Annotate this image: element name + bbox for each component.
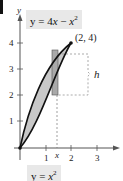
equation-exponent: 2 [74,14,78,22]
equation-text: y = 4 [30,15,53,27]
equation-text: y = [31,170,48,181]
x-tick-label: 3 [95,153,100,163]
y-tick-label: 2 [9,90,14,100]
strip-x-label: x [55,150,59,160]
equation-exponent: 2 [53,169,57,177]
equation-text: − [58,15,70,27]
upper-curve-label: y = 4x − x2 [26,10,82,29]
lower-curve-label: y = x2 [27,165,61,181]
x-tick-label: 2 [69,153,74,163]
x-axis-arrow-icon [113,146,120,151]
y-axis-arrow-icon [18,14,23,21]
point-label: (2, 4) [75,33,97,43]
y-tick-label: 1 [9,116,14,126]
y-tick-label: 3 [9,64,14,74]
area-between-curves-diagram: y y = 4x − x2 (2, 4) h 1 2 3 4 1 x 2 3 y… [0,0,123,181]
height-label: h [94,69,100,79]
x-tick-label: 1 [44,153,49,163]
origin-point [18,146,22,150]
y-tick-label: 4 [9,38,14,48]
intersection-point [69,41,73,45]
y-axis-label: y [17,5,21,15]
